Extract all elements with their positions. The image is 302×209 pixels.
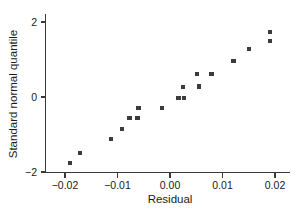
scatter-plot-canvas: −202 Standard normal quantile −0.02−0.01… [0, 0, 302, 209]
data-point [231, 59, 235, 63]
y-tick-label: −2 [25, 166, 37, 178]
y-tick-label: 2 [31, 16, 37, 28]
y-axis-title: Standard normal quantile [7, 30, 19, 159]
data-point [182, 96, 186, 100]
data-point [197, 84, 201, 88]
qq-plot-figure: −202 Standard normal quantile −0.02−0.01… [0, 0, 302, 209]
data-point [78, 151, 82, 155]
y-axis: −202 Standard normal quantile [7, 14, 46, 178]
data-point-group [68, 30, 272, 165]
x-axis-title: Residual [148, 193, 193, 205]
data-point [176, 96, 180, 100]
data-point [136, 106, 140, 110]
x-tick-label: −0.01 [104, 179, 131, 191]
x-tick-label: −0.02 [52, 179, 79, 191]
x-tick-label: 0.01 [212, 179, 233, 191]
x-tick-group: −0.02−0.010.000.010.02 [52, 173, 286, 192]
x-axis: −0.02−0.010.000.010.02 Residual [46, 173, 291, 206]
data-point [68, 161, 72, 165]
x-tick-label: 0.02 [265, 179, 286, 191]
y-tick-group: −202 [25, 16, 45, 178]
data-point [195, 72, 199, 76]
data-point [135, 116, 139, 120]
data-point [268, 30, 272, 34]
data-point [127, 116, 131, 120]
data-point [160, 106, 164, 110]
data-point [268, 39, 272, 43]
data-point [109, 137, 113, 141]
x-tick-label: 0.00 [160, 179, 181, 191]
data-point [120, 127, 124, 131]
data-point [209, 72, 213, 76]
data-point [181, 85, 185, 89]
data-point [247, 47, 251, 51]
y-tick-label: 0 [31, 91, 37, 103]
